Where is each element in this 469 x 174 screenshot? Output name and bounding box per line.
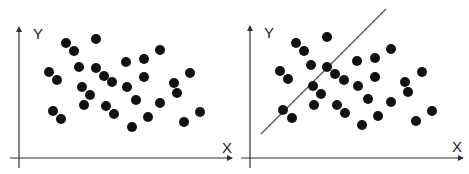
data-point [77,82,87,92]
data-point [332,100,342,110]
data-point [353,81,363,91]
data-point [172,88,182,98]
data-points [44,34,205,132]
data-point [109,109,119,119]
data-point [287,113,297,123]
data-point [169,78,179,88]
data-point [363,94,373,104]
data-point [291,38,301,48]
data-point [340,108,350,118]
data-point [74,62,84,72]
data-point [275,66,285,76]
data-point [309,100,319,110]
data-point [85,90,95,100]
data-point [107,77,117,87]
data-points [275,32,437,130]
data-point [99,71,109,81]
data-point [91,34,101,44]
data-point [322,32,332,42]
data-point [370,72,380,82]
data-point [306,60,316,70]
data-point [339,75,349,85]
data-point [143,112,153,122]
data-point [131,95,141,105]
data-point [48,106,58,116]
scatter-plot-left: X Y [10,25,232,168]
data-point [308,81,318,91]
data-point [330,69,340,79]
data-point [79,100,89,110]
x-axis-label: X [222,139,232,156]
data-point [91,63,101,73]
data-point [121,57,131,67]
data-point [427,106,437,116]
data-point [155,45,165,55]
x-axis-label: X [452,138,462,155]
data-point [403,87,413,97]
y-axis-label: Y [264,24,274,41]
data-point [195,107,205,117]
data-point [61,38,71,48]
data-point [278,105,288,115]
data-point [357,120,367,130]
data-point [400,77,410,87]
data-point [139,54,149,64]
data-point [316,89,326,99]
data-point [185,68,195,78]
data-point [417,67,427,77]
data-point [370,53,380,63]
data-point [101,101,111,111]
data-point [386,44,396,54]
data-point [44,67,54,77]
data-point [52,75,62,85]
data-point [56,114,66,124]
data-point [122,82,132,92]
data-point [373,111,383,121]
data-point [322,62,332,72]
scatter-plot-right: X Y [241,9,463,168]
data-point [179,117,189,127]
data-point [352,56,362,66]
data-point [69,46,79,56]
data-point [411,116,421,126]
data-point [127,122,137,132]
y-axis-label: Y [33,25,43,42]
data-point [139,72,149,82]
scatter-plots-figure: X Y X Y [0,0,469,174]
data-point [386,97,396,107]
data-point [155,98,165,108]
data-point [283,74,293,84]
data-point [299,46,309,56]
